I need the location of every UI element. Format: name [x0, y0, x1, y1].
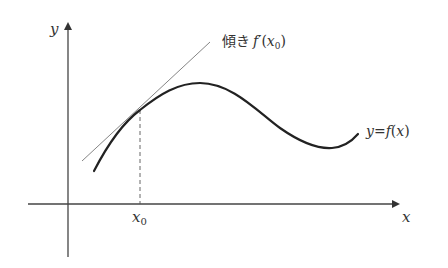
- tangent-slope-label: 傾きf′(x0): [222, 33, 286, 51]
- slope-prefix: 傾き: [222, 33, 250, 49]
- curve-label: y=f(x): [365, 123, 410, 139]
- curve-var: x: [396, 123, 404, 139]
- slope-var: x: [267, 33, 275, 49]
- x0-sub: 0: [140, 216, 146, 227]
- tangent-line: [82, 42, 210, 161]
- x0-label: x0: [132, 208, 147, 227]
- curve-f: [94, 83, 358, 171]
- diagram-canvas: y x x0 傾きf′(x0) y=f(x): [0, 0, 448, 268]
- curve-eq: =: [374, 123, 386, 139]
- curve-close: ): [404, 123, 409, 139]
- y-axis-label: y: [49, 20, 59, 38]
- slope-close: ): [280, 33, 285, 49]
- x-axis-label: x: [402, 208, 411, 226]
